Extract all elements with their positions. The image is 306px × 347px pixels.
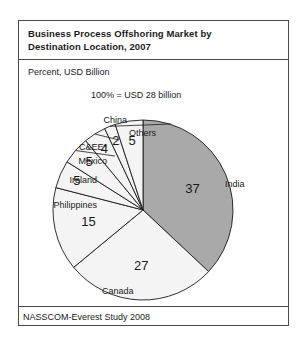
chart-title-line-2: Destination Location, 2007 (28, 41, 279, 54)
pie-label-mexico: Mexico (42, 156, 107, 166)
pie-label-others: Others (129, 128, 156, 138)
chart-source-text: NASSCOM-Everest Study 2008 (23, 311, 279, 323)
pie-value-label: 27 (134, 258, 148, 273)
pie-label-cee: C&EE* (47, 142, 107, 152)
pie-label-philippines: Philippines (19, 200, 97, 210)
pie-label-canada: Canada (102, 286, 134, 296)
pie-value-label: 37 (185, 181, 199, 196)
pie-value-label: 2 (112, 133, 119, 148)
chart-title-line-1: Business Process Offshoring Market by (28, 28, 279, 41)
pie-label-india: India (225, 179, 245, 189)
pie-label-ireland: Ireland (32, 175, 97, 185)
pie-label-china: China (67, 115, 127, 125)
pie-value-label: 15 (81, 214, 95, 229)
chart-source-band: NASSCOM-Everest Study 2008 (19, 306, 288, 325)
chart-plot-area: Percent, USD Billion 100% = USD 28 billi… (19, 60, 288, 306)
chart-figure: Business Process Offshoring Market by De… (18, 20, 289, 326)
chart-title-band: Business Process Offshoring Market by De… (19, 21, 288, 60)
